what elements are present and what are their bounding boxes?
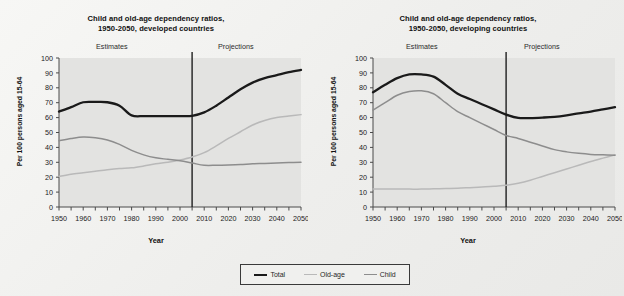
legend-item-old-age: Old-age (304, 271, 345, 278)
svg-text:2010: 2010 (510, 214, 526, 223)
svg-text:0: 0 (49, 203, 53, 212)
y-axis-label-developing: Per 100 persons aged 15-64 (330, 62, 337, 182)
chart-title-developed: Child and old-age dependency ratios, 195… (0, 14, 312, 33)
svg-text:70: 70 (45, 98, 53, 107)
svg-text:20: 20 (359, 173, 367, 182)
svg-text:90: 90 (359, 69, 367, 78)
svg-text:2040: 2040 (269, 214, 285, 223)
phase-label-projections-developed: Projections (218, 42, 254, 51)
svg-text:100: 100 (41, 54, 53, 63)
svg-text:40: 40 (45, 143, 53, 152)
svg-text:50: 50 (45, 128, 53, 137)
chart-panel-developed: Child and old-age dependency ratios, 195… (0, 0, 312, 258)
svg-text:1990: 1990 (148, 214, 164, 223)
svg-text:2020: 2020 (220, 214, 236, 223)
svg-text:2030: 2030 (245, 214, 261, 223)
svg-text:50: 50 (359, 128, 367, 137)
phase-label-estimates-developing: Estimates (406, 42, 438, 51)
plot-area-developing: 0102030405060708090100195019601970198019… (338, 52, 622, 224)
legend-label-total: Total (270, 271, 285, 278)
svg-text:90: 90 (45, 69, 53, 78)
chart-title-line1: Child and old-age dependency ratios, (88, 14, 225, 23)
svg-text:1960: 1960 (389, 214, 405, 223)
svg-text:60: 60 (45, 113, 53, 122)
phase-label-projections-developing: Projections (524, 42, 560, 51)
svg-text:1980: 1980 (124, 214, 140, 223)
svg-text:30: 30 (45, 158, 53, 167)
svg-text:2040: 2040 (583, 214, 599, 223)
legend-item-total: Total (254, 271, 285, 278)
svg-text:1970: 1970 (413, 214, 429, 223)
svg-text:100: 100 (355, 54, 367, 63)
svg-text:2000: 2000 (486, 214, 502, 223)
svg-text:1970: 1970 (99, 214, 115, 223)
svg-text:10: 10 (359, 188, 367, 197)
svg-text:30: 30 (359, 158, 367, 167)
plot-area-developed: 0102030405060708090100195019601970198019… (24, 52, 308, 224)
svg-text:2010: 2010 (196, 214, 212, 223)
x-axis-label-developing: Year (312, 236, 624, 245)
chart-title-line1: Child and old-age dependency ratios, (400, 14, 537, 23)
chart-title-line2: 1950-2050, developing countries (409, 24, 527, 33)
svg-text:20: 20 (45, 173, 53, 182)
svg-text:2020: 2020 (534, 214, 550, 223)
chart-title-line2: 1950-2050, developed countries (98, 24, 214, 33)
legend-swatch-old-age (304, 274, 317, 275)
figure-canvas: Child and old-age dependency ratios, 195… (0, 0, 624, 296)
phase-label-estimates-developed: Estimates (96, 42, 128, 51)
chart-legend: Total Old-age Child (240, 264, 410, 285)
svg-text:80: 80 (45, 83, 53, 92)
svg-text:1980: 1980 (438, 214, 454, 223)
svg-text:60: 60 (359, 113, 367, 122)
chart-title-developing: Child and old-age dependency ratios, 195… (312, 14, 624, 33)
svg-text:2000: 2000 (172, 214, 188, 223)
legend-label-child: Child (380, 271, 396, 278)
svg-text:1950: 1950 (365, 214, 381, 223)
svg-text:10: 10 (45, 188, 53, 197)
svg-text:80: 80 (359, 83, 367, 92)
svg-text:2050: 2050 (607, 214, 622, 223)
legend-swatch-child (364, 274, 377, 275)
svg-text:1960: 1960 (75, 214, 91, 223)
legend-item-child: Child (364, 271, 396, 278)
svg-text:2030: 2030 (559, 214, 575, 223)
svg-text:2050: 2050 (293, 214, 308, 223)
svg-text:1990: 1990 (462, 214, 478, 223)
svg-text:0: 0 (363, 203, 367, 212)
svg-text:70: 70 (359, 98, 367, 107)
svg-text:1950: 1950 (51, 214, 67, 223)
svg-text:40: 40 (359, 143, 367, 152)
chart-panel-developing: Child and old-age dependency ratios, 195… (312, 0, 624, 258)
x-axis-label-developed: Year (0, 236, 312, 245)
legend-label-old-age: Old-age (320, 271, 345, 278)
legend-swatch-total (254, 274, 267, 276)
y-axis-label-developed: Per 100 persons aged 15-64 (16, 62, 23, 182)
